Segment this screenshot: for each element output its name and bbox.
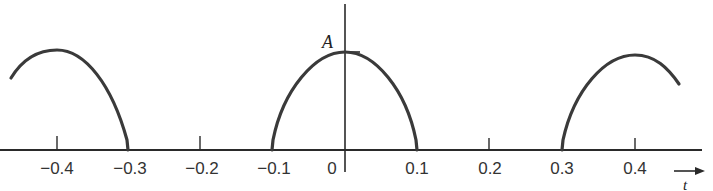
tick-label: 0 — [327, 159, 336, 178]
t-arrow-icon — [674, 167, 705, 175]
tick-label: −0.1 — [257, 159, 291, 178]
amplitude-label: A — [321, 32, 334, 52]
tick-label: 0.2 — [478, 159, 502, 178]
tick-label: 0.3 — [550, 159, 574, 178]
pulse-minus-0.4 — [11, 50, 128, 150]
tick-marks — [57, 136, 635, 150]
tick-labels: −0.4 −0.3 −0.2 −0.1 0 0.1 0.2 0.3 0.4 — [40, 159, 647, 178]
tick-label: −0.3 — [113, 159, 147, 178]
pulse-0.4 — [562, 55, 679, 150]
tick-label: 0.1 — [405, 159, 429, 178]
tick-label: −0.2 — [185, 159, 219, 178]
pulse-train-figure: −0.4 −0.3 −0.2 −0.1 0 0.1 0.2 0.3 0.4 A … — [0, 0, 713, 191]
tick-label: 0.4 — [623, 159, 647, 178]
t-axis-label: t — [683, 177, 688, 191]
tick-label: −0.4 — [40, 159, 74, 178]
